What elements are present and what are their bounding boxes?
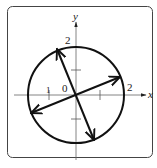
x-tick-neg1-label: 1 (46, 85, 51, 95)
origin-label: 0 (62, 82, 68, 94)
diagram-canvas: y x 0 1 2 2 (0, 0, 157, 168)
x-axis-label: x (147, 88, 153, 100)
y-axis-label: y (72, 10, 78, 22)
y-tick-2-label: 2 (65, 34, 71, 46)
x-tick-2-label: 2 (127, 81, 133, 93)
